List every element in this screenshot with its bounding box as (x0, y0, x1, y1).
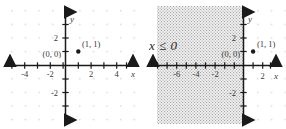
data-point-1-1 (251, 49, 255, 53)
x-axis-label: x (130, 69, 135, 79)
origin-point-label: (0, 0) (222, 49, 241, 59)
x-axis-label: x (273, 71, 278, 81)
x-tick-label--2: -2 (47, 69, 54, 79)
x-tick-label--4: -4 (192, 69, 200, 79)
inequality-annotation: x ≤ 0 (149, 38, 177, 54)
data-point-1-1-label: (1, 1) (257, 39, 276, 49)
x-tick-label--6: -6 (173, 69, 180, 79)
y-tick-label-2: 2 (54, 33, 58, 43)
data-point-1-1 (76, 49, 80, 53)
y-tick-label-2: 2 (232, 33, 236, 43)
x-tick-label--2: -2 (212, 69, 219, 79)
coordinate-plane-unshaded: -4 -2 2 4 2 -2 x y (0, 0) (1, 1) (0, 0, 143, 129)
y-tick-label--2: -2 (51, 88, 58, 98)
x-tick-label--4: -4 (21, 69, 29, 79)
y-axis-label: y (69, 14, 74, 24)
data-point-1-1-label: (1, 1) (82, 39, 101, 49)
x-tick-label-2: 2 (261, 71, 265, 81)
x-tick-label-2: 2 (89, 69, 93, 79)
coordinate-plane-shaded: -6 -4 -2 2 2 -2 x y (0, 0) (1, 1) x ≤ 0 (143, 0, 286, 129)
y-axis-label: y (247, 14, 252, 24)
origin-point-label: (0, 0) (43, 49, 62, 59)
figure-root: -4 -2 2 4 2 -2 x y (0, 0) (1, 1) (0, 0, 286, 129)
y-tick-label--2: -2 (229, 88, 236, 98)
x-tick-label-4: 4 (115, 69, 120, 79)
